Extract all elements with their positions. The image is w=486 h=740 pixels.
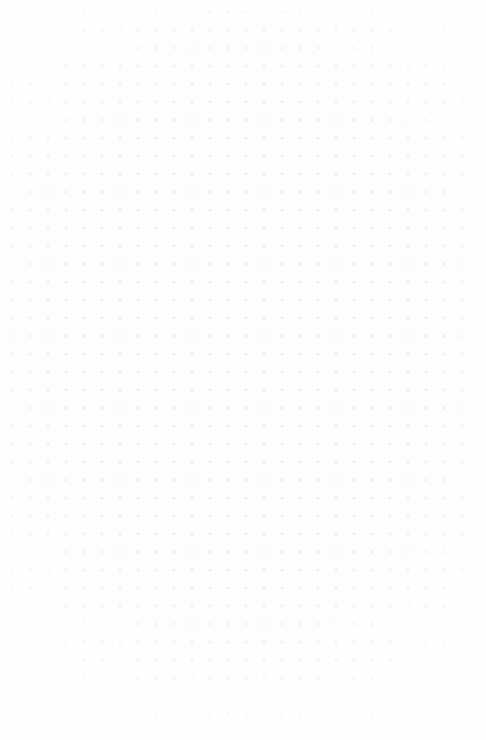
dotted-grid-canvas-window[interactable] — [0, 0, 486, 740]
canvas-surface[interactable] — [0, 0, 486, 740]
canvas-content-region[interactable] — [0, 0, 486, 740]
